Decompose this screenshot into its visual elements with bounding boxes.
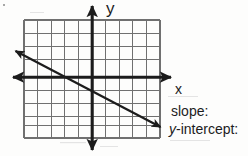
y-intercept-prompt-rest: -intercept: — [176, 121, 238, 137]
x-axis-label: x — [175, 82, 182, 96]
y-axis-label: y — [106, 0, 115, 17]
slope-prompt-label: slope: — [171, 104, 208, 118]
worksheet-figure: y x slope: y-intercept: — [0, 0, 248, 156]
y-intercept-variable: y — [169, 121, 176, 137]
y-intercept-prompt-label: y-intercept: — [169, 122, 238, 136]
